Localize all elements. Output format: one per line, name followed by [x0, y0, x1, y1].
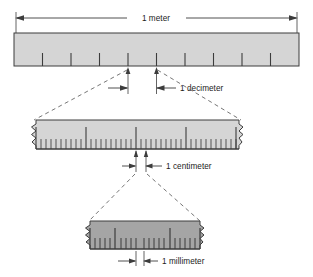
diagram-canvas: 1 meter: [0, 0, 313, 277]
centimeter-label: 1 centimeter: [166, 162, 212, 171]
millimeter-dimension-line: [118, 251, 158, 266]
decimeter-projection-lines: [34, 70, 241, 120]
meter-label: 1 meter: [142, 14, 170, 23]
decimeter-dimension-line: [108, 67, 176, 94]
meter-ruler: [14, 33, 299, 66]
centimeter-dimension-line: [122, 150, 162, 172]
decimeter-label: 1 decimeter: [180, 84, 224, 93]
centimeter-ruler: [86, 221, 205, 249]
metric-ruler-diagram: 1 meter: [0, 0, 313, 277]
decimeter-ruler: [32, 120, 244, 149]
centimeter-projection-lines: [89, 174, 200, 221]
millimeter-label: 1 millimeter: [162, 257, 205, 266]
